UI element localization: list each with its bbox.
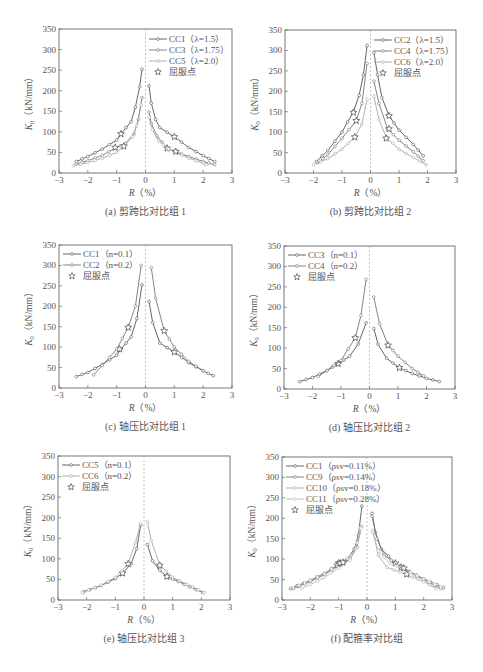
- x-tick-label: −2: [306, 602, 316, 612]
- data-marker: [376, 74, 379, 77]
- data-marker: [405, 152, 408, 155]
- x-tick-label: −1: [337, 175, 347, 185]
- data-marker: [356, 541, 359, 544]
- panel-caption: (d) 轴压比对比组 2: [329, 421, 411, 434]
- curve-pos: [149, 301, 213, 375]
- data-marker: [360, 314, 363, 317]
- y-tick-label: 150: [43, 106, 57, 116]
- data-marker: [392, 362, 395, 365]
- data-marker: [213, 163, 216, 166]
- curve-neg: [316, 46, 367, 162]
- data-marker: [86, 161, 89, 164]
- legend: CC2（λ=1.5）CC4（λ=1.75）CC6（λ=2.0）屈服点: [374, 35, 454, 78]
- x-tick-label: −1: [112, 390, 122, 400]
- y-tick-label: 300: [43, 260, 57, 270]
- y-tick-label: 250: [269, 66, 283, 76]
- legend-label: CC9（ρsv=0.14%）: [306, 472, 381, 482]
- legend: CC1（ρsv=0.11%）CC9（ρsv=0.14%）CC10（ρsv=0.1…: [286, 461, 386, 515]
- figure-canvas: −3−2−10123050100150200250300350K0（kN/mm）…: [0, 0, 483, 672]
- data-marker: [326, 157, 329, 160]
- data-marker: [178, 580, 181, 583]
- data-marker: [373, 51, 376, 54]
- data-marker: [207, 372, 210, 375]
- data-marker: [326, 149, 329, 152]
- data-marker: [187, 146, 190, 149]
- chart-panel-c: −3−2−10123050100150200250300350K0（kN/mm）…: [23, 240, 235, 433]
- x-tick-label: 0: [142, 602, 147, 612]
- y-tick-label: 150: [269, 107, 283, 117]
- legend-star-icon: [69, 273, 75, 279]
- series-cc1: [75, 284, 215, 378]
- x-tick-label: 2: [425, 175, 430, 185]
- data-marker: [347, 142, 350, 145]
- data-marker: [180, 356, 183, 359]
- data-marker: [101, 364, 104, 367]
- x-tick-label: 2: [201, 175, 206, 185]
- data-marker: [138, 85, 141, 88]
- y-tick-label: 0: [51, 595, 56, 605]
- y-tick-label: 50: [272, 364, 282, 374]
- data-marker: [86, 155, 89, 158]
- x-tick-label: −1: [336, 391, 346, 401]
- x-tick-label: 1: [397, 175, 402, 185]
- data-marker: [195, 150, 198, 153]
- data-marker: [115, 151, 118, 154]
- data-marker: [213, 160, 216, 163]
- legend-label: CC1（λ=1.5）: [169, 34, 224, 44]
- data-marker: [435, 587, 438, 590]
- data-marker: [300, 587, 303, 590]
- y-tick-label: 100: [43, 342, 57, 352]
- y-tick-label: 350: [42, 451, 56, 461]
- data-marker: [326, 153, 329, 156]
- y-tick-label: 250: [266, 493, 280, 503]
- y-tick-label: 50: [273, 148, 283, 158]
- y-tick-label: 250: [268, 282, 282, 292]
- data-marker: [309, 579, 312, 582]
- legend-label: CC6（n=0.2）: [82, 471, 137, 481]
- data-marker: [141, 96, 144, 99]
- curve-pos: [373, 533, 441, 587]
- x-tick-label: 3: [454, 175, 459, 185]
- data-marker: [107, 580, 110, 583]
- x-tick-label: −2: [82, 602, 92, 612]
- data-marker: [434, 583, 437, 586]
- data-marker: [166, 346, 169, 349]
- data-marker: [139, 523, 142, 526]
- data-marker: [357, 343, 360, 346]
- x-tick-label: −2: [308, 391, 318, 401]
- legend-label: CC3（n=0.1）: [308, 250, 363, 260]
- data-marker: [134, 541, 137, 544]
- data-marker: [212, 374, 215, 377]
- data-marker: [114, 576, 117, 579]
- y-tick-label: 350: [43, 24, 57, 34]
- data-marker: [208, 162, 211, 165]
- data-marker: [341, 131, 344, 134]
- data-marker: [398, 139, 401, 142]
- data-marker: [348, 355, 351, 358]
- data-marker: [135, 547, 138, 550]
- y-tick-label: 0: [275, 595, 280, 605]
- data-marker: [148, 111, 151, 114]
- data-marker: [388, 562, 391, 565]
- y-tick-label: 100: [269, 127, 283, 137]
- series-cc6: [81, 520, 206, 594]
- data-marker: [309, 583, 312, 586]
- data-marker: [151, 560, 154, 563]
- data-marker: [157, 140, 160, 143]
- y-tick-label: 50: [270, 575, 280, 585]
- legend-marker: [382, 61, 385, 64]
- data-marker: [195, 159, 198, 162]
- data-marker: [349, 559, 352, 562]
- data-marker: [202, 162, 205, 165]
- y-tick-label: 50: [46, 574, 56, 584]
- curve-pos: [372, 516, 441, 588]
- data-marker: [186, 583, 189, 586]
- legend-yield-label: 屈服点: [82, 482, 109, 492]
- y-tick-label: 350: [266, 452, 280, 462]
- data-marker: [422, 375, 425, 378]
- x-tick-label: −1: [112, 175, 122, 185]
- data-marker: [141, 68, 144, 71]
- legend: CC1（λ=1.5）CC3（λ=1.75）CC5（λ=2.0）屈服点: [149, 34, 229, 77]
- data-marker: [165, 570, 168, 573]
- data-marker: [383, 556, 386, 559]
